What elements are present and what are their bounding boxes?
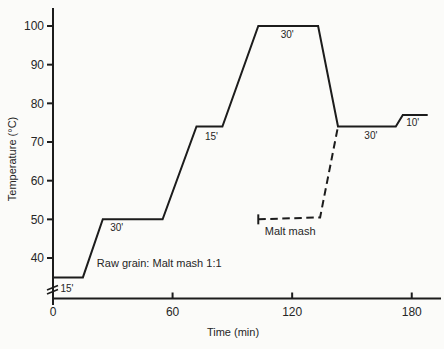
y-tick-label: 80 <box>31 97 45 111</box>
hold-duration-label: 30' <box>110 222 123 233</box>
x-tick-label: 120 <box>282 305 302 319</box>
y-tick-label: 90 <box>31 58 45 72</box>
hold-duration-label: 30' <box>364 130 377 141</box>
y-tick-label: 60 <box>31 174 45 188</box>
dashed-series-line <box>258 127 338 220</box>
x-tick-label: 60 <box>166 305 180 319</box>
series-inline-label: Raw grain: Malt mash 1:1 <box>97 257 222 269</box>
hold-duration-label: 10' <box>406 117 419 128</box>
hold-duration-label: 30' <box>281 29 294 40</box>
x-axis-title: Time (min) <box>207 326 259 338</box>
y-tick-label: 100 <box>24 19 44 33</box>
solid-series-line <box>53 26 428 277</box>
y-tick-label: 40 <box>31 251 45 265</box>
x-tick-label: 0 <box>50 305 57 319</box>
hold-duration-label: 15' <box>60 283 73 294</box>
y-tick-label: 70 <box>31 135 45 149</box>
series-inline-label: Malt mash <box>265 225 316 237</box>
hold-duration-label: 15' <box>205 131 218 142</box>
chart-canvas: 40506070809010006012018015'30'15'30'30'1… <box>0 0 444 349</box>
x-tick-label: 180 <box>402 305 422 319</box>
mash-temperature-chart: 40506070809010006012018015'30'15'30'30'1… <box>0 0 444 349</box>
y-axis-title: Temperature (°C) <box>6 117 18 201</box>
y-tick-label: 50 <box>31 213 45 227</box>
